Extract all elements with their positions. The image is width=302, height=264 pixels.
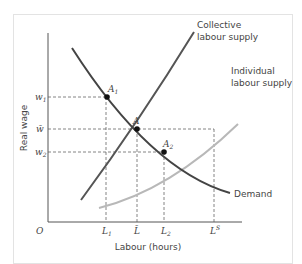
tick-w2: w2 <box>35 147 47 158</box>
point-A2 <box>161 149 167 155</box>
x-axis-label: Labour (hours) <box>115 242 181 252</box>
tick-L2: L2 <box>160 226 171 237</box>
guide-lines <box>48 97 214 222</box>
tick-Lbar: L̄ <box>133 225 140 236</box>
tick-LS: LS <box>209 224 220 236</box>
demand-label: Demand <box>234 189 272 199</box>
point-A <box>134 126 140 132</box>
point-A1 <box>104 94 110 100</box>
label-A2: A2 <box>162 139 174 150</box>
individual-label-line2: labour supply <box>231 78 293 88</box>
axes <box>48 33 242 222</box>
tick-w1: w1 <box>35 92 47 103</box>
collective-label-line1: Collective <box>197 20 242 30</box>
y-axis-label: Real wage <box>19 104 29 151</box>
label-A: A <box>132 116 140 126</box>
origin-label: O <box>36 226 44 236</box>
tick-wbar: w̄ <box>36 124 44 134</box>
tick-L1: L1 <box>101 226 112 237</box>
individual-label-line1: Individual <box>231 66 275 76</box>
label-A1: A1 <box>107 84 118 95</box>
demand-curve <box>72 48 230 193</box>
collective-label-line2: labour supply <box>197 32 259 42</box>
individual-labour-supply-curve <box>99 124 238 208</box>
